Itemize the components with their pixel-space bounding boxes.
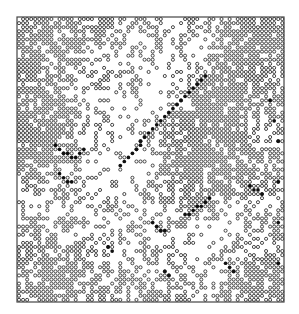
- filled-site: [276, 261, 280, 265]
- filled-site: [58, 147, 62, 151]
- filled-site: [82, 147, 86, 151]
- filled-site: [191, 208, 195, 212]
- filled-site: [122, 160, 126, 164]
- filled-site: [151, 127, 155, 131]
- filled-site: [183, 95, 187, 99]
- filled-site: [58, 172, 62, 176]
- filled-site: [260, 192, 264, 196]
- filled-site: [187, 213, 191, 217]
- filled-site: [167, 274, 171, 278]
- filled-site: [139, 143, 143, 147]
- lattice-figure: [0, 0, 299, 314]
- filled-site: [66, 151, 70, 155]
- filled-site: [191, 86, 195, 90]
- filled-site: [163, 229, 167, 233]
- filled-site: [151, 221, 155, 225]
- filled-site: [118, 164, 122, 168]
- filled-site: [131, 151, 135, 155]
- filled-site: [187, 90, 191, 94]
- filled-site: [183, 213, 187, 217]
- filled-site: [199, 204, 203, 208]
- filled-site: [54, 143, 58, 147]
- filled-site: [208, 196, 212, 200]
- filled-site: [228, 265, 232, 269]
- filled-site: [147, 131, 151, 135]
- filled-site: [252, 188, 256, 192]
- filled-site: [127, 156, 131, 160]
- filled-site: [163, 270, 167, 274]
- filled-site: [256, 188, 260, 192]
- filled-site: [155, 123, 159, 127]
- filled-site: [199, 78, 203, 82]
- filled-site: [171, 107, 175, 111]
- lattice-plot: [0, 0, 299, 314]
- filled-site: [135, 147, 139, 151]
- filled-site: [224, 261, 228, 265]
- filled-site: [175, 103, 179, 107]
- filled-site: [143, 135, 147, 139]
- filled-site: [276, 180, 280, 184]
- filled-site: [159, 229, 163, 233]
- filled-site: [248, 184, 252, 188]
- filled-site: [70, 180, 74, 184]
- filled-site: [62, 176, 66, 180]
- filled-site: [195, 204, 199, 208]
- filled-site: [203, 200, 207, 204]
- filled-site: [203, 74, 207, 78]
- filled-site: [70, 156, 74, 160]
- filled-site: [155, 225, 159, 229]
- filled-site: [179, 99, 183, 103]
- filled-site: [78, 151, 82, 155]
- filled-site: [110, 249, 114, 253]
- filled-site: [66, 180, 70, 184]
- filled-site: [139, 139, 143, 143]
- filled-site: [62, 151, 66, 155]
- filled-site: [167, 111, 171, 115]
- filled-site: [74, 156, 78, 160]
- filled-site: [276, 221, 280, 225]
- filled-site: [163, 115, 167, 119]
- filled-site: [272, 119, 276, 123]
- filled-site: [195, 82, 199, 86]
- filled-site: [268, 99, 272, 103]
- filled-site: [232, 270, 236, 274]
- filled-site: [276, 139, 280, 143]
- filled-site: [106, 245, 110, 249]
- filled-site: [159, 119, 163, 123]
